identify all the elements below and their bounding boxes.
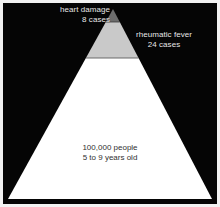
label-rheumatic-fever: rheumatic fever 24 cases bbox=[115, 30, 213, 49]
label-base-population: 100,000 people 5 to 9 years old bbox=[3, 143, 217, 163]
label-base-population-line1: 100,000 people bbox=[3, 143, 217, 153]
tier-base-population bbox=[8, 58, 212, 199]
label-rheumatic-fever-line1: rheumatic fever bbox=[115, 30, 213, 40]
label-heart-damage: heart damage 8 cases bbox=[7, 5, 110, 24]
figure-container: heart damage 8 cases rheumatic fever 24 … bbox=[0, 0, 220, 207]
label-heart-damage-line1: heart damage bbox=[7, 5, 110, 15]
label-base-population-line2: 5 to 9 years old bbox=[3, 153, 217, 163]
label-heart-damage-line2: 8 cases bbox=[7, 15, 110, 25]
chart-panel: heart damage 8 cases rheumatic fever 24 … bbox=[3, 3, 217, 204]
label-rheumatic-fever-line2: 24 cases bbox=[115, 40, 213, 50]
